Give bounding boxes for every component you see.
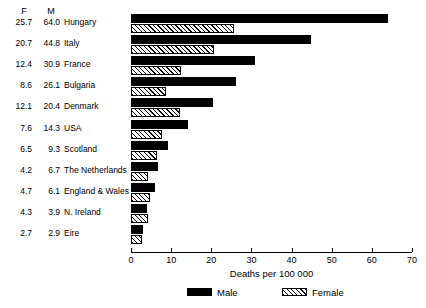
cell-female-rate: 12.1 (8, 101, 32, 112)
cell-male-rate: 2.9 (36, 228, 60, 239)
bar-male (131, 77, 236, 86)
axis-tick (171, 248, 172, 252)
bar-female (131, 66, 181, 75)
cell-male-rate: 6.7 (36, 165, 60, 176)
legend-swatch-female-icon (282, 288, 307, 296)
cell-country-name: Scotland (64, 144, 97, 155)
table-row: 20.744.8Italy (0, 38, 126, 49)
legend-label-male: Male (217, 287, 238, 298)
bar-female (131, 130, 162, 139)
axis-tick (211, 248, 212, 252)
cell-female-rate: 6.5 (8, 144, 32, 155)
cell-country-name: England & Wales (64, 186, 129, 197)
bar-female (131, 193, 150, 202)
bar-group (131, 98, 412, 119)
axis-tick-label: 10 (156, 255, 186, 266)
axis-tick (251, 248, 252, 252)
axis-tick-label: 50 (317, 255, 347, 266)
bar-male (131, 35, 311, 44)
axis-tick-label: 30 (236, 255, 266, 266)
bar-group (131, 14, 412, 35)
cell-female-rate: 20.7 (8, 38, 32, 49)
axis-tick (332, 248, 333, 252)
column-header-male: M (43, 6, 59, 16)
bar-group (131, 141, 412, 162)
cell-female-rate: 7.6 (8, 123, 32, 134)
cell-female-rate: 4.7 (8, 186, 32, 197)
table-row: 7.614.3USA (0, 123, 126, 134)
chart-legend: Male Female (131, 287, 412, 301)
cell-country-name: Bulgaria (64, 80, 95, 91)
cell-female-rate: 8.6 (8, 80, 32, 91)
cell-country-name: Eire (64, 228, 79, 239)
bar-group (131, 35, 412, 56)
table-row: 4.76.1England & Wales (0, 186, 126, 197)
table-row: 25.764.0Hungary (0, 17, 126, 28)
cell-male-rate: 14.3 (36, 123, 60, 134)
cell-male-rate: 64.0 (36, 17, 60, 28)
bar-male (131, 162, 158, 171)
cell-male-rate: 3.9 (36, 207, 60, 218)
cell-female-rate: 4.2 (8, 165, 32, 176)
cell-female-rate: 12.4 (8, 59, 32, 70)
cell-male-rate: 9.3 (36, 144, 60, 155)
legend-item-male: Male (187, 287, 238, 299)
cell-country-name: Italy (64, 38, 80, 49)
bar-group (131, 120, 412, 141)
cell-male-rate: 6.1 (36, 186, 60, 197)
cell-female-rate: 2.7 (8, 228, 32, 239)
cell-country-name: USA (64, 123, 81, 134)
cell-female-rate: 4.3 (8, 207, 32, 218)
cell-male-rate: 26.1 (36, 80, 60, 91)
bar-male (131, 56, 255, 65)
cell-country-name: N. Ireland (64, 207, 101, 218)
bar-male (131, 204, 147, 213)
bar-male (131, 225, 143, 234)
table-row: 12.430.9France (0, 59, 126, 70)
bar-female (131, 87, 166, 96)
bar-male (131, 141, 168, 150)
cell-male-rate: 20.4 (36, 101, 60, 112)
legend-item-female: Female (282, 287, 344, 299)
legend-swatch-male-icon (187, 288, 212, 296)
table-row: 4.33.9N. Ireland (0, 207, 126, 218)
x-axis-line (131, 252, 412, 253)
bar-female (131, 172, 148, 181)
bar-male (131, 14, 388, 23)
table-row: 8.626.1Bulgaria (0, 80, 126, 91)
bar-group (131, 162, 412, 183)
axis-tick-label: 70 (397, 255, 426, 266)
bar-female (131, 24, 234, 33)
bar-group (131, 183, 412, 204)
bar-group (131, 204, 412, 225)
axis-tick (412, 248, 413, 252)
bar-female (131, 108, 180, 117)
bar-female (131, 45, 214, 54)
axis-tick-label: 20 (196, 255, 226, 266)
cell-male-rate: 30.9 (36, 59, 60, 70)
table-row: 2.72.9Eire (0, 228, 126, 239)
bar-male (131, 98, 213, 107)
column-header-female: F (18, 6, 30, 16)
bar-group (131, 225, 412, 246)
bar-female (131, 235, 142, 244)
cell-country-name: France (64, 59, 90, 70)
plot-area (131, 14, 412, 252)
cell-country-name: Hungary (64, 17, 96, 28)
axis-tick (292, 248, 293, 252)
bar-male (131, 120, 188, 129)
cell-male-rate: 44.8 (36, 38, 60, 49)
bar-group (131, 77, 412, 98)
table-row: 4.26.7The Netherlands (0, 165, 126, 176)
axis-tick (372, 248, 373, 252)
cell-country-name: Denmark (64, 101, 98, 112)
bar-male (131, 183, 155, 192)
table-row: 12.120.4Denmark (0, 101, 126, 112)
bar-chart: F M 25.764.0Hungary20.744.8Italy12.430.9… (0, 0, 426, 308)
cell-country-name: The Netherlands (64, 165, 127, 176)
cell-female-rate: 25.7 (8, 17, 32, 28)
legend-label-female: Female (312, 287, 344, 298)
x-axis-title: Deaths per 100 000 (131, 268, 412, 279)
bar-female (131, 151, 157, 160)
axis-tick-label: 40 (277, 255, 307, 266)
